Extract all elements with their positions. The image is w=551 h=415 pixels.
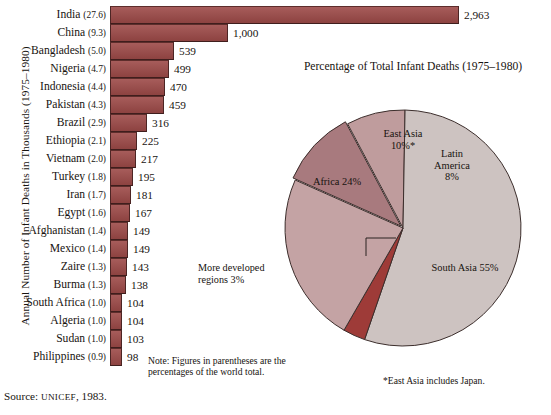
- bar-country-name: Brazil: [57, 116, 85, 129]
- bar-country-name: Vietnam: [46, 152, 85, 165]
- bar-row: Indonesia (4.4)470: [0, 78, 300, 96]
- pie-chart-title: Percentage of Total Infant Deaths (1975–…: [279, 60, 547, 73]
- source-year: , 1983.: [76, 390, 107, 402]
- bar-world-share: (1.4): [88, 244, 106, 254]
- bar-row: Mexico (1.4)149: [0, 240, 300, 258]
- bar: [110, 312, 122, 330]
- bar-country-name: Burma: [54, 278, 86, 291]
- bar-country-name: Turkey: [52, 170, 85, 183]
- bar-category-label: Pakistan (4.3): [46, 96, 106, 114]
- bar-value-label: 217: [141, 150, 158, 168]
- bar-category-label: Vietnam (2.0): [46, 150, 106, 168]
- bar-value-label: 149: [133, 240, 150, 258]
- bar-world-share: (1.6): [88, 208, 106, 218]
- pie-footnote: *East Asia includes Japan.: [383, 375, 485, 386]
- bar-country-name: Ethiopia: [46, 134, 85, 147]
- bar-category-label: Burma (1.3): [54, 276, 106, 294]
- bar: [110, 276, 126, 294]
- bar-category-label: Zaire (1.3): [61, 258, 106, 276]
- bar-country-name: Pakistan: [46, 98, 85, 111]
- bar-world-share: (2.1): [88, 136, 106, 146]
- bar-value-label: 499: [174, 60, 191, 78]
- bar-world-share: (5.0): [88, 46, 106, 56]
- bar: [110, 330, 122, 348]
- bar-value-label: 1,000: [233, 24, 258, 42]
- pie-label-latin-america-line1: Latin: [421, 148, 483, 160]
- bar: [110, 96, 164, 114]
- bar-country-name: Zaire: [61, 260, 85, 273]
- bar-world-share: (9.3): [88, 28, 106, 38]
- bar-category-label: Egypt (1.6): [57, 204, 106, 222]
- bar-row: Vietnam (2.0)217: [0, 150, 300, 168]
- bar-category-label: Philippines (0.9): [33, 348, 106, 366]
- bar-country-name: Sudan: [56, 332, 85, 345]
- bar-value-label: 149: [133, 222, 150, 240]
- bar-category-label: South Africa (1.0): [26, 294, 106, 312]
- bar-value-label: 470: [170, 78, 187, 96]
- bar: [110, 114, 147, 132]
- bar-world-share: (4.3): [88, 100, 106, 110]
- pie-callout-line2: regions 3%: [198, 274, 284, 286]
- bar-country-name: Bangladesh: [31, 44, 85, 57]
- bar-row: Ethiopia (2.1)225: [0, 132, 300, 150]
- bar-world-share: (27.6): [83, 10, 106, 20]
- bar-row: Nigeria (4.7)499: [0, 60, 300, 78]
- bar-category-label: Sudan (1.0): [56, 330, 106, 348]
- bar-row: China (9.3)1,000: [0, 24, 300, 42]
- bar-world-share: (1.0): [88, 298, 106, 308]
- bar-category-label: Afghanistan (1.4): [28, 222, 106, 240]
- bar-country-name: Nigeria: [50, 62, 85, 75]
- bar-country-name: Philippines: [33, 350, 85, 363]
- bar-category-label: Brazil (2.9): [57, 114, 106, 132]
- bar-country-name: Egypt: [57, 206, 85, 219]
- bar: [110, 222, 128, 240]
- bar-world-share: (1.4): [88, 226, 106, 236]
- bar: [110, 150, 136, 168]
- bar-category-label: Turkey (1.8): [52, 168, 106, 186]
- bar-category-label: Iran (1.7): [66, 186, 106, 204]
- bar: [110, 186, 131, 204]
- bar-category-label: Indonesia (4.4): [40, 78, 106, 96]
- bar: [110, 42, 174, 60]
- pie-label-east-asia-line1: East Asia: [355, 128, 451, 140]
- bar-chart: India (27.6)2,963China (9.3)1,000Banglad…: [0, 0, 300, 380]
- figure-infant-deaths: Annual Number of Infant Deaths in Thousa…: [0, 0, 551, 415]
- pie-label-south-asia: South Asia 55%: [405, 262, 525, 274]
- bar-category-label: China (9.3): [57, 24, 106, 42]
- bar-value-label: 181: [136, 186, 153, 204]
- bar: [110, 24, 228, 42]
- bar-value-label: 195: [138, 168, 155, 186]
- bar-row: Bangladesh (5.0)539: [0, 42, 300, 60]
- bar-value-label: 167: [135, 204, 152, 222]
- bar: [110, 258, 127, 276]
- bar-value-label: 104: [127, 294, 144, 312]
- bar-country-name: Iran: [66, 188, 85, 201]
- bar-world-share: (1.0): [88, 316, 106, 326]
- bar-value-label: 225: [142, 132, 159, 150]
- bar: [110, 294, 122, 312]
- bar-value-label: 103: [127, 330, 144, 348]
- source-organization: UNICEF: [41, 392, 76, 402]
- source-prefix: Source:: [4, 390, 41, 402]
- bar-value-label: 316: [152, 114, 169, 132]
- pie-label-latin-america: Latin America 8%: [421, 148, 483, 183]
- bar-country-name: South Africa: [26, 296, 85, 309]
- bar-world-share: (4.7): [88, 64, 106, 74]
- bar-country-name: Indonesia: [40, 80, 85, 93]
- bar-category-label: Ethiopia (2.1): [46, 132, 106, 150]
- bar-value-label: 104: [127, 312, 144, 330]
- bar-value-label: 459: [169, 96, 186, 114]
- bar-row: Turkey (1.8)195: [0, 168, 300, 186]
- bar-country-name: China: [57, 26, 85, 39]
- bar-category-label: Mexico (1.4): [50, 240, 106, 258]
- bar: [110, 6, 459, 24]
- bar-row: Brazil (2.9)316: [0, 114, 300, 132]
- bar-row: Egypt (1.6)167: [0, 204, 300, 222]
- bar-value-label: 143: [132, 258, 149, 276]
- bar-world-share: (1.3): [88, 280, 106, 290]
- bar-world-share: (2.0): [88, 154, 106, 164]
- pie-label-latin-america-line3: 8%: [421, 171, 483, 183]
- bar-row: South Africa (1.0)104: [0, 294, 300, 312]
- bar-row: Algeria (1.0)104: [0, 312, 300, 330]
- bar-category-label: Bangladesh (5.0): [31, 42, 106, 60]
